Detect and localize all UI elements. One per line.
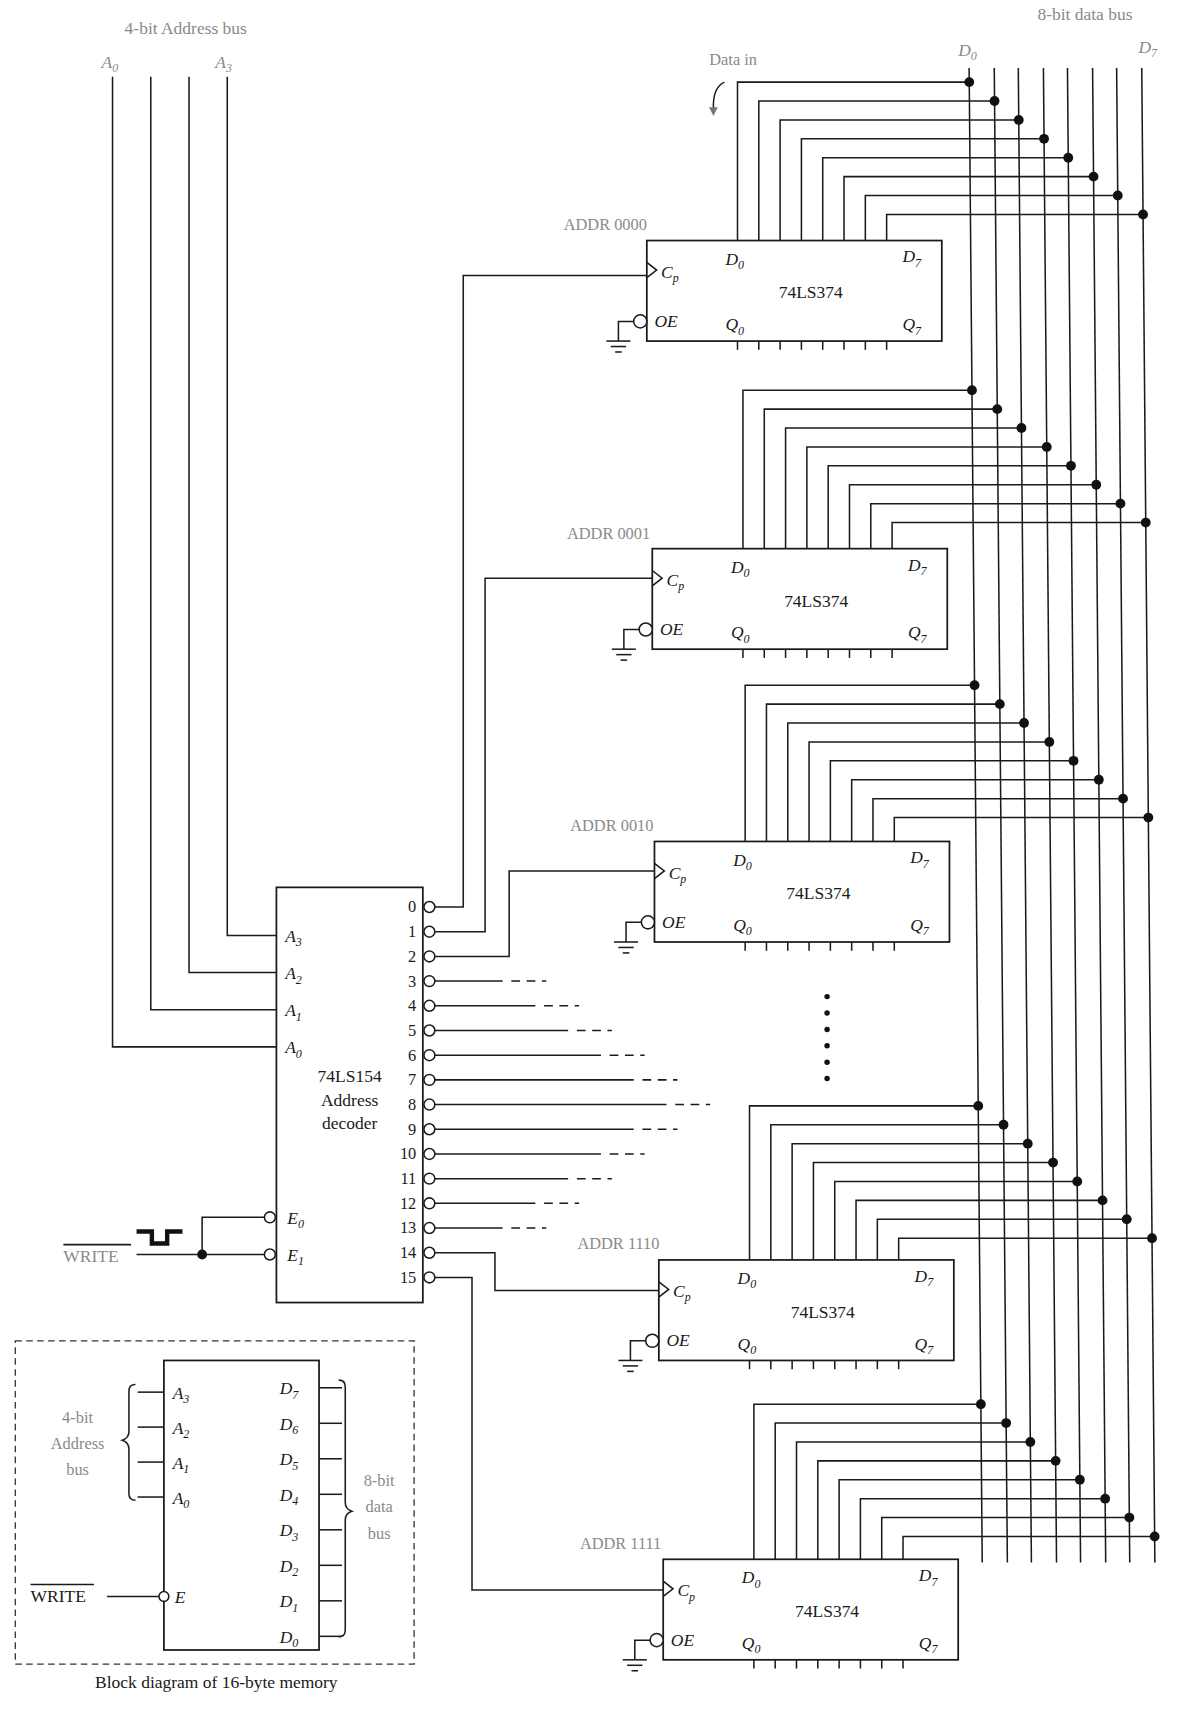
register-4: ADDR 111174LS374CpD0D7Q0Q7OE — [580, 1399, 1160, 1671]
block-addr-label-2: Address — [51, 1434, 105, 1453]
oe-pin-label: OE — [660, 619, 684, 639]
register-chip-name: 74LS374 — [791, 1302, 855, 1322]
decoder-label-decoder: decoder — [322, 1113, 377, 1133]
register-chip-name: 74LS374 — [784, 591, 848, 611]
decoder-output-12: 12 — [400, 1194, 416, 1213]
register-2: ADDR 001074LS374CpD0D7Q0Q7OE — [570, 680, 1153, 953]
decoder-output-11: 11 — [400, 1169, 416, 1188]
block-addr-brace-icon — [122, 1384, 135, 1500]
oe-pin-label: OE — [671, 1630, 695, 1650]
decoder-output-9: 9 — [408, 1120, 416, 1139]
decoder-output-6: 6 — [408, 1046, 416, 1065]
block-write-label: WRITE — [31, 1586, 86, 1606]
data-bus-line-d3 — [1043, 68, 1056, 1563]
data-in-label: Data in — [709, 50, 757, 69]
decoder-output-13: 13 — [400, 1218, 416, 1237]
write-pulse-icon — [137, 1232, 183, 1244]
decoder-output-4: 4 — [408, 996, 416, 1015]
oe-bubble — [646, 1334, 659, 1347]
block-data-label-1: 8-bit — [364, 1471, 395, 1490]
data-bus-d7-label: D7 — [1137, 37, 1158, 60]
data-bus-line-d5 — [1093, 68, 1106, 1563]
decoder-output-5: 5 — [408, 1021, 416, 1040]
data-bus-d0-label: D0 — [957, 40, 977, 63]
data-bus-line-d4 — [1067, 68, 1080, 1563]
register-chip-name: 74LS374 — [779, 282, 843, 302]
data-bus-title: 8-bit data bus — [1037, 4, 1132, 24]
register-3: ADDR 111074LS374CpD0D7Q0Q7OE — [577, 1101, 1157, 1371]
block-diagram-caption: Block diagram of 16-byte memory — [95, 1672, 338, 1692]
decoder-output-0: 0 — [408, 897, 416, 916]
data-bus-line-d0 — [969, 68, 982, 1563]
data-bus-line-d2 — [1018, 68, 1031, 1563]
block-enable-bubble — [159, 1592, 169, 1602]
block-data-label-3: bus — [368, 1524, 391, 1543]
oe-bubble — [634, 315, 647, 328]
decoder-output-1: 1 — [408, 922, 416, 941]
data-bus-wires — [969, 68, 1155, 1563]
oe-bubble — [639, 623, 652, 636]
oe-bubble — [641, 916, 654, 929]
decoder-label-address: Address — [321, 1090, 378, 1110]
memory-schematic: 4-bit Address bus A0 A3 8-bit data bus D… — [0, 0, 1180, 1719]
register-1: ADDR 000174LS374CpD0D7Q0Q7OE — [567, 385, 1151, 660]
register-address-label: ADDR 1110 — [577, 1234, 659, 1253]
decoder-output-8: 8 — [408, 1095, 416, 1114]
register-address-label: ADDR 0010 — [570, 816, 653, 835]
oe-pin-label: OE — [662, 912, 686, 932]
data-in-arrow-icon — [713, 82, 724, 109]
data-bus-line-d6 — [1117, 68, 1130, 1563]
decoder-output-15: 15 — [400, 1268, 416, 1287]
decoder-output-3: 3 — [408, 972, 416, 991]
address-bus-wires — [113, 77, 277, 1047]
oe-bubble — [650, 1634, 663, 1647]
more-registers-ellipsis — [824, 994, 829, 1081]
address-bus-title: 4-bit Address bus — [125, 18, 247, 38]
register-address-label: ADDR 1111 — [580, 1534, 661, 1553]
address-bus-a0-label: A0 — [101, 52, 119, 75]
oe-pin-label: OE — [654, 311, 678, 331]
data-in-arrowhead-icon — [709, 107, 718, 116]
data-bus-line-d1 — [994, 68, 1007, 1563]
decoder-name: 74LS154 — [318, 1066, 382, 1086]
register-chip-name: 74LS374 — [795, 1601, 859, 1621]
block-addr-label-3: bus — [66, 1460, 89, 1479]
block-addr-label-1: 4-bit — [62, 1408, 93, 1427]
decoder-output-14: 14 — [400, 1243, 416, 1262]
address-bus-a3-label: A3 — [214, 52, 232, 75]
block-enable-label: E — [174, 1587, 186, 1607]
decoder-output-2: 2 — [408, 947, 416, 966]
block-data-brace-icon — [339, 1380, 352, 1637]
block-data-label-2: data — [365, 1497, 393, 1516]
oe-pin-label: OE — [666, 1330, 690, 1350]
write-signal-label: WRITE — [63, 1246, 118, 1266]
register-chip-name: 74LS374 — [786, 883, 850, 903]
register-address-label: ADDR 0000 — [564, 215, 647, 234]
register-0: ADDR 000074LS374CpD0D7Q0Q7OE — [564, 77, 1148, 352]
decoder-output-10: 10 — [400, 1144, 416, 1163]
register-address-label: ADDR 0001 — [567, 524, 650, 543]
decoder-output-7: 7 — [408, 1070, 416, 1089]
